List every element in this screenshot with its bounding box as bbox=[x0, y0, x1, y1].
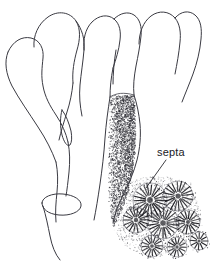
illustration-canvas: septa bbox=[0, 0, 210, 272]
columella-8 bbox=[197, 239, 200, 242]
septum bbox=[134, 200, 145, 201]
septum bbox=[151, 235, 152, 243]
septa-label: septa bbox=[157, 146, 186, 158]
columella-3 bbox=[160, 220, 165, 225]
columella-5 bbox=[186, 220, 190, 224]
columella-7 bbox=[175, 245, 178, 248]
columella-6 bbox=[150, 244, 154, 248]
septum bbox=[178, 201, 179, 210]
coral-illustration-figure: septa bbox=[0, 0, 210, 272]
columella-4 bbox=[134, 218, 138, 222]
septum bbox=[163, 208, 164, 218]
columella-2 bbox=[175, 193, 180, 198]
septum bbox=[190, 240, 197, 241]
columella-1 bbox=[147, 197, 153, 203]
